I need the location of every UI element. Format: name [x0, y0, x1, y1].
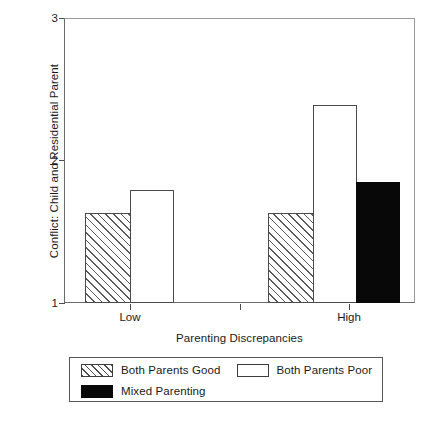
x-axis-title: Parenting Discrepancies: [64, 332, 415, 344]
legend-label-mixed-parenting: Mixed Parenting: [121, 385, 206, 397]
legend-item-both-parents-good: Both Parents Good: [81, 364, 221, 377]
legend-swatch-open-icon: [237, 364, 269, 377]
legend-row-first: Both Parents Good Both Parents Poor: [70, 359, 382, 381]
legend-label-both-parents-poor: Both Parents Poor: [277, 364, 373, 376]
legend-item-mixed-parenting: Mixed Parenting: [81, 385, 206, 398]
legend-row-second: Mixed Parenting: [70, 380, 382, 402]
legend-swatch-hatched-icon: [81, 364, 113, 377]
bar-high-both-parents-poor: [313, 105, 357, 303]
bar-high-both-parents-good: [268, 213, 314, 303]
legend-item-both-parents-poor: Both Parents Poor: [237, 364, 373, 377]
x-tick-label-low: Low: [85, 311, 175, 324]
legend-swatch-solid-icon: [81, 385, 113, 398]
bar-low-both-parents-poor: [130, 190, 174, 303]
x-tick-mark-high: [349, 304, 350, 310]
bar-chart-figure: Conflict: Child and Residential Parent 3…: [0, 0, 443, 422]
chart-legend: Both Parents Good Both Parents Poor Mixe…: [69, 357, 383, 402]
x-tick-label-high: High: [304, 311, 394, 324]
bar-high-mixed-parenting: [356, 182, 400, 303]
x-tick-mark-mid: [240, 304, 241, 310]
bar-low-both-parents-good: [85, 213, 131, 303]
x-tick-mark-low: [130, 304, 131, 310]
legend-label-both-parents-good: Both Parents Good: [121, 364, 221, 376]
